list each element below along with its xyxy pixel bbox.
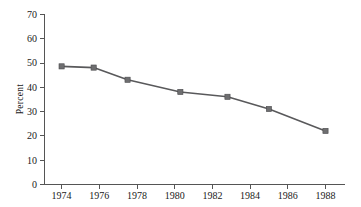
y-tick-label-40: 40	[27, 82, 37, 93]
data-point-1988	[323, 128, 328, 133]
series-markers	[59, 64, 328, 134]
y-axis-title: Percent	[15, 84, 25, 115]
x-tick-label-1982: 1982	[202, 190, 222, 201]
x-tick-label-1976: 1976	[89, 190, 109, 201]
data-point-1980.3	[178, 89, 183, 94]
x-tick-label-1974: 1974	[52, 190, 72, 201]
line-chart: 0 10 20 30 40 50 60 70 Percent 1974 1976…	[0, 0, 361, 207]
y-tick-label-50: 50	[27, 57, 37, 68]
x-tick-label-1980: 1980	[165, 190, 185, 201]
y-tick-label-60: 60	[27, 33, 37, 44]
y-tick-label-70: 70	[27, 9, 37, 20]
x-tick-label-1984: 1984	[240, 190, 260, 201]
y-tick-label-0: 0	[32, 179, 37, 190]
data-point-1977.5	[125, 77, 130, 82]
x-tick-label-1986: 1986	[278, 190, 298, 201]
data-point-1982.8	[225, 94, 230, 99]
y-tick-label-30: 30	[27, 106, 37, 117]
chart-page: 0 10 20 30 40 50 60 70 Percent 1974 1976…	[0, 0, 361, 207]
data-point-1985	[266, 106, 271, 111]
series-line-percent	[62, 66, 326, 131]
y-tick-label-20: 20	[27, 130, 37, 141]
x-tick-label-1978: 1978	[127, 190, 147, 201]
data-point-1975.7	[91, 65, 96, 70]
x-tick-label-1988: 1988	[316, 190, 336, 201]
data-point-1974	[59, 64, 64, 69]
y-tick-label-10: 10	[27, 155, 37, 166]
